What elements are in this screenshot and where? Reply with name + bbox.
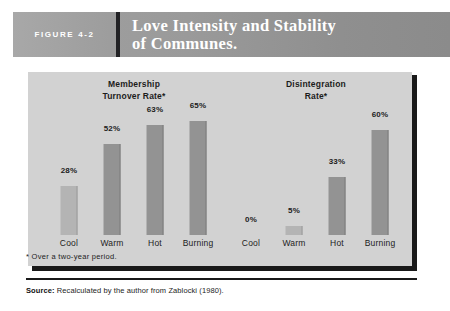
chart-heading-disintegration: Disintegration Rate* xyxy=(228,79,404,102)
bar-value-cool: 28% xyxy=(48,166,90,175)
source-line: Source: Recalculated by the author from … xyxy=(26,286,224,295)
panel-shadow-right xyxy=(412,75,417,271)
axis-label-cool-disintegration: Cool xyxy=(230,238,272,248)
bar-value-hot-disintegration: 33% xyxy=(316,157,358,166)
bar-value-warm-disintegration: 5% xyxy=(273,206,315,215)
chart-panel: Membership Turnover Rate* 28% 52% 63% 65… xyxy=(28,72,412,266)
source-divider-rule xyxy=(26,278,417,280)
bar-hot-disintegration xyxy=(329,177,346,235)
axis-label-cool: Cool xyxy=(48,238,90,248)
plot-area-disintegration: 0% 5% 33% 60% xyxy=(228,104,404,235)
bar-burning-disintegration xyxy=(372,130,389,235)
bar-slot-hot-disintegration: 33% xyxy=(316,104,358,235)
bar-cool xyxy=(61,186,78,235)
bar-value-burning-disintegration: 60% xyxy=(359,110,401,119)
figure-number-label: FIGURE 4-2 xyxy=(34,30,94,39)
chart-heading-disintegration-line-1: Disintegration xyxy=(228,79,404,91)
axis-label-warm-disintegration: Warm xyxy=(273,238,315,248)
axis-label-burning: Burning xyxy=(177,238,219,248)
bar-value-cool-disintegration: 0% xyxy=(230,215,272,224)
axis-label-burning-disintegration: Burning xyxy=(359,238,401,248)
figure-title-cell: Love Intensity and Stability of Communes… xyxy=(120,12,450,57)
bar-slot-warm-disintegration: 5% xyxy=(273,104,315,235)
axis-label-hot-disintegration: Hot xyxy=(316,238,358,248)
figure-title-line-1: Love Intensity and Stability xyxy=(132,17,450,35)
plot-area-membership: 28% 52% 63% 65% xyxy=(46,104,222,235)
bar-value-burning: 65% xyxy=(177,101,219,110)
source-text: Recalculated by the author from Zablocki… xyxy=(55,286,224,295)
bar-value-warm: 52% xyxy=(91,124,133,133)
figure-header-band: FIGURE 4-2 Love Intensity and Stability … xyxy=(13,12,450,57)
bar-slot-hot: 63% xyxy=(134,104,176,235)
axis-labels-disintegration: Cool Warm Hot Burning xyxy=(228,238,404,252)
chart-panel-container: Membership Turnover Rate* 28% 52% 63% 65… xyxy=(28,72,417,271)
figure-label-cell: FIGURE 4-2 xyxy=(13,12,116,57)
chart-footnote: * Over a two-year period. xyxy=(26,252,117,261)
bar-slot-cool: 28% xyxy=(48,104,90,235)
bar-warm xyxy=(104,144,121,235)
panel-shadow-bottom xyxy=(32,266,417,271)
bar-slot-cool-disintegration: 0% xyxy=(230,104,272,235)
chart-heading-membership: Membership Turnover Rate* xyxy=(46,79,222,102)
bar-slot-burning: 65% xyxy=(177,104,219,235)
figure-title-line-2: of Communes. xyxy=(132,35,450,53)
bar-hot xyxy=(147,125,164,235)
bar-warm-disintegration xyxy=(286,226,303,235)
chart-heading-membership-line-1: Membership xyxy=(46,79,222,91)
bar-burning xyxy=(190,121,207,235)
axis-label-hot: Hot xyxy=(134,238,176,248)
axis-label-warm: Warm xyxy=(91,238,133,248)
bar-slot-burning-disintegration: 60% xyxy=(359,104,401,235)
bar-value-hot: 63% xyxy=(134,105,176,114)
chart-heading-disintegration-line-2: Rate* xyxy=(228,91,404,103)
chart-membership-turnover-rate: Membership Turnover Rate* 28% 52% 63% 65… xyxy=(46,72,222,266)
chart-disintegration-rate: Disintegration Rate* 0% 5% 33% 60% xyxy=(228,72,404,266)
source-label: Source: xyxy=(26,286,55,295)
bar-slot-warm: 52% xyxy=(91,104,133,235)
axis-labels-membership: Cool Warm Hot Burning xyxy=(46,238,222,252)
